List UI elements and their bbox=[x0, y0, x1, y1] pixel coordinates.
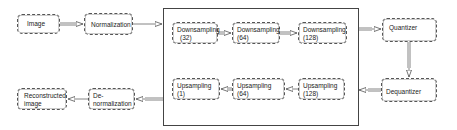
downsampling-32-label: Downsampling bbox=[177, 26, 213, 34]
downsampling-64-value: (64) bbox=[237, 34, 275, 42]
upsampling-64-label: Upsampling bbox=[237, 82, 280, 90]
downsampling-32-node: Downsampling (32) bbox=[172, 22, 218, 44]
denormalization-label-1: De- bbox=[93, 92, 130, 100]
quantizer-label: Quantizer bbox=[389, 24, 432, 32]
downsampling-128-node: Downsampling (128) bbox=[298, 22, 347, 44]
downsampling-64-node: Downsampling (64) bbox=[232, 22, 280, 44]
downsampling-64-label: Downsampling bbox=[237, 26, 275, 34]
dequantizer-label: Dequantizer bbox=[386, 88, 432, 96]
upsampling-64-node: Upsampling (64) bbox=[232, 78, 285, 100]
normalization-label: Normalization bbox=[91, 21, 128, 29]
upsampling-128-node: Upsampling (128) bbox=[298, 78, 345, 100]
reconstructed-label-2: image bbox=[24, 100, 62, 108]
upsampling-128-label: Upsampling bbox=[303, 82, 340, 90]
upsampling-1-node: Upsampling (1) bbox=[172, 78, 220, 100]
upsampling-64-value: (64) bbox=[237, 90, 280, 98]
upsampling-128-value: (128) bbox=[303, 90, 340, 98]
downsampling-128-label: Downsampling bbox=[303, 26, 342, 34]
quantizer-node: Quantizer bbox=[382, 18, 437, 42]
image-node: Image bbox=[17, 14, 60, 34]
dequantizer-node: Dequantizer bbox=[381, 78, 437, 102]
denormalization-node: De- normalization bbox=[88, 88, 135, 110]
reconstructed-label-1: Reconstructed bbox=[24, 92, 62, 100]
downsampling-128-value: (128) bbox=[303, 34, 342, 42]
upsampling-1-label: Upsampling bbox=[177, 82, 215, 90]
upsampling-1-value: (1) bbox=[177, 90, 215, 98]
normalization-node: Normalization bbox=[84, 13, 133, 35]
denormalization-label-2: normalization bbox=[93, 100, 130, 108]
image-label: Image bbox=[27, 20, 55, 28]
downsampling-32-value: (32) bbox=[177, 34, 213, 42]
reconstructed-image-node: Reconstructed image bbox=[17, 88, 67, 110]
